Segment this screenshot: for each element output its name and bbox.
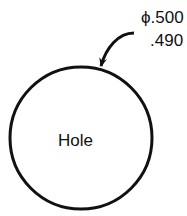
diameter-symbol: ϕ	[141, 8, 151, 27]
upper-limit: .500	[151, 8, 184, 27]
hole-label: Hole	[58, 131, 93, 151]
lower-limit: .490	[150, 32, 183, 49]
dimension-upper: ϕ.500	[141, 9, 184, 26]
leader-arrow	[101, 33, 134, 66]
